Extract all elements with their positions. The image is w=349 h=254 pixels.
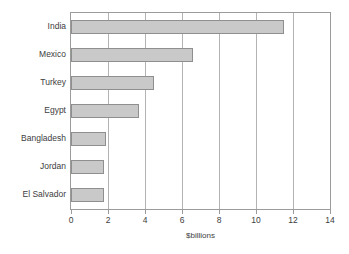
bar — [71, 76, 154, 90]
bar-row — [71, 160, 330, 174]
category-label: Jordan — [0, 161, 66, 171]
category-label: Turkey — [0, 77, 66, 87]
x-axis-tick — [219, 210, 220, 214]
x-axis-tick — [256, 210, 257, 214]
category-label: Mexico — [0, 49, 66, 59]
x-axis-tick — [330, 210, 331, 214]
x-axis-tick-label: 4 — [143, 215, 148, 226]
bar-row — [71, 48, 330, 62]
bar — [71, 104, 139, 118]
x-axis-tick — [182, 210, 183, 214]
x-axis-tick — [293, 210, 294, 214]
bar-series — [71, 13, 330, 209]
x-axis-tick-label: 8 — [217, 215, 222, 226]
bar-row — [71, 104, 330, 118]
bar — [71, 20, 284, 34]
category-axis-labels: IndiaMexicoTurkeyEgyptBangladeshJordanEl… — [0, 12, 66, 210]
category-label: El Salvador — [0, 189, 66, 199]
x-axis-title: $billions — [70, 231, 331, 241]
bar — [71, 132, 106, 146]
bar — [71, 160, 104, 174]
category-label: Bangladesh — [0, 133, 66, 143]
x-axis-tick-labels: 02468101214 — [70, 215, 331, 227]
x-axis-tick-label: 2 — [106, 215, 111, 226]
bar — [71, 188, 104, 202]
bar — [71, 48, 193, 62]
x-axis-tick-label: 6 — [180, 215, 185, 226]
bar-row — [71, 20, 330, 34]
bar-row — [71, 132, 330, 146]
x-axis-tick-label: 10 — [251, 215, 260, 226]
bar-chart: IndiaMexicoTurkeyEgyptBangladeshJordanEl… — [0, 0, 349, 254]
bar-row — [71, 188, 330, 202]
x-axis-tick — [145, 210, 146, 214]
x-axis-tick-label: 12 — [288, 215, 297, 226]
x-axis-tick-label: 14 — [325, 215, 334, 226]
plot-area — [70, 12, 331, 210]
x-axis-tick-marks — [70, 210, 331, 214]
x-axis-tick — [108, 210, 109, 214]
category-label: Egypt — [0, 105, 66, 115]
category-label: India — [0, 21, 66, 31]
bar-row — [71, 76, 330, 90]
x-axis-tick — [71, 210, 72, 214]
x-axis-tick-label: 0 — [69, 215, 74, 226]
